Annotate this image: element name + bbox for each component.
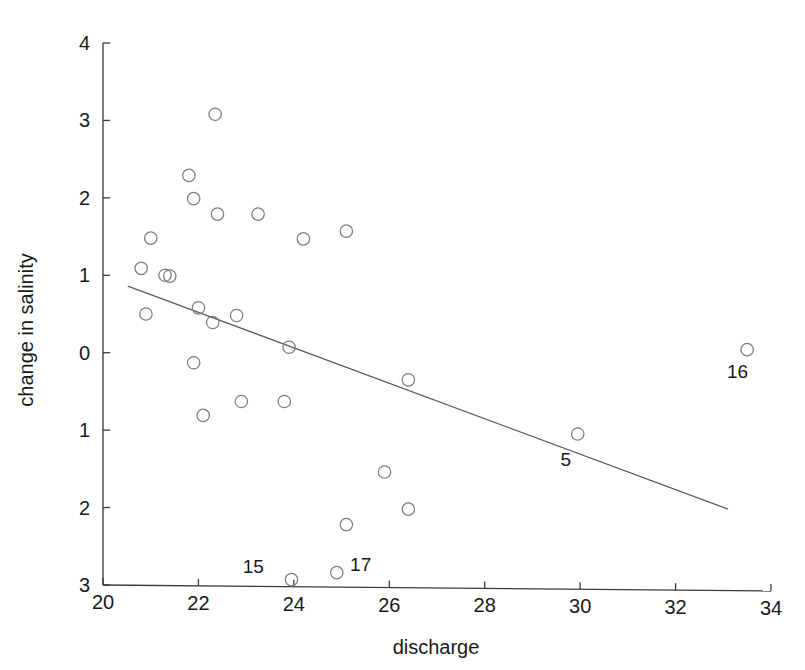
y-tick-label: 4 <box>79 32 90 54</box>
x-tick-label: 20 <box>92 591 114 613</box>
y-tick-label: 1 <box>79 419 90 441</box>
x-tick-label: 28 <box>474 594 496 616</box>
point-annotation-label: 15 <box>243 556 264 577</box>
x-tick-label: 26 <box>378 594 400 616</box>
x-tick-label: 32 <box>664 596 686 618</box>
figure-background <box>0 0 805 670</box>
x-axis-title: discharge <box>393 636 480 658</box>
point-annotation-label: 17 <box>350 554 371 575</box>
point-annotation-label: 16 <box>727 361 748 382</box>
scatter-plot-figure: 43210123 2022242628303234 5151617 discha… <box>0 0 805 670</box>
y-tick-label: 2 <box>79 187 90 209</box>
x-tick-label: 22 <box>187 592 209 614</box>
y-tick-label: 1 <box>79 264 90 286</box>
y-tick-label: 2 <box>79 497 90 519</box>
y-tick-label: 3 <box>79 109 90 131</box>
y-tick-label: 0 <box>79 342 90 364</box>
y-axis-title: change in salinity <box>15 253 37 406</box>
x-tick-label: 30 <box>569 595 591 617</box>
point-annotation-label: 5 <box>561 449 572 470</box>
y-tick-label: 3 <box>79 574 90 596</box>
figure-canvas: 43210123 2022242628303234 5151617 discha… <box>0 0 805 670</box>
x-tick-label: 24 <box>283 593 305 615</box>
x-tick-label: 34 <box>760 597 782 619</box>
